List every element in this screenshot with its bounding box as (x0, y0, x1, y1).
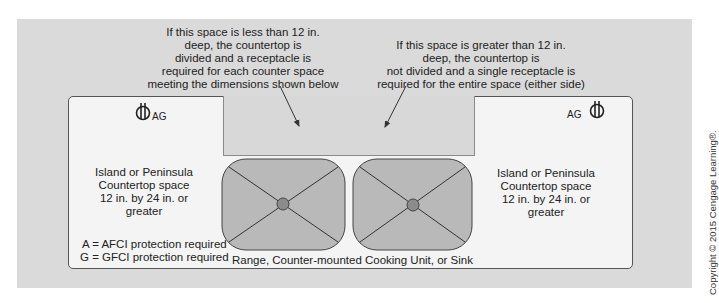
burner-right (353, 159, 472, 250)
burner-left (222, 159, 345, 250)
countertop-line: Countertop space (486, 180, 606, 193)
copyright-notice: Copyright © 2015 Cengage Learning®. (707, 130, 718, 295)
countertop-right-label: Island or Peninsula Countertop space 12 … (486, 167, 606, 219)
receptacle-label: AG (152, 111, 166, 122)
countertop-line: Island or Peninsula (486, 167, 606, 180)
countertop-line: Countertop space (84, 179, 204, 192)
countertop-line: 12 in. by 24 in. or (486, 193, 606, 206)
receptacle-outlet-icon (137, 103, 150, 120)
appliance-caption: Range, Counter-mounted Cooking Unit, or … (232, 254, 473, 266)
receptacle-right-label: AG (567, 109, 581, 120)
countertop-line: greater (84, 205, 204, 218)
callout-arrow-right (385, 86, 406, 127)
receptacle-outlet-icon (591, 101, 604, 118)
countertop-left-label: Island or Peninsula Countertop space 12 … (84, 166, 204, 218)
countertop-line: greater (486, 206, 606, 219)
receptacle-label: AG (567, 109, 581, 120)
countertop-line: 12 in. by 24 in. or (84, 192, 204, 205)
legend-afci: A = AFCI protection required (80, 238, 229, 251)
legend-gfci: G = GFCI protection required (80, 251, 229, 264)
callout-arrow-left (280, 86, 299, 126)
countertop-line: Island or Peninsula (84, 166, 204, 179)
receptacle-left-label: AG (152, 111, 166, 122)
legend: A = AFCI protection required G = GFCI pr… (80, 238, 229, 263)
